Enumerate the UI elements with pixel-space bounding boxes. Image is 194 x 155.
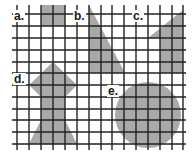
label-e: e. <box>107 85 119 97</box>
shape-c <box>148 10 183 73</box>
shapes-grid-figure <box>0 0 194 155</box>
label-b: b. <box>73 10 86 22</box>
label-d: d. <box>13 73 26 85</box>
label-c: c. <box>132 10 144 22</box>
label-a: a. <box>13 10 25 22</box>
shape-b <box>89 5 125 73</box>
